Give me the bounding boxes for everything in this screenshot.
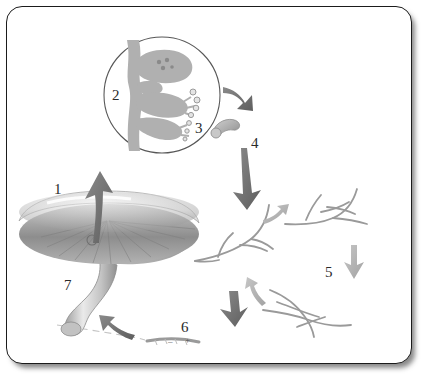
stalk-base <box>61 322 81 336</box>
mating-hypha-fusion <box>147 339 199 345</box>
label-7: 7 <box>64 278 72 293</box>
arrow-inset-to-spore <box>223 87 253 111</box>
hypha-cluster-lower-left <box>195 205 273 262</box>
nucleus <box>161 66 165 70</box>
nucleus <box>165 58 169 62</box>
basidium-upper <box>138 50 192 83</box>
arrow-hyphae-down-right <box>344 245 364 279</box>
arrow-fusion-to-mushroom <box>99 315 135 340</box>
hypha-cluster-bottom-right-fusing <box>263 290 351 337</box>
magnified-gill-inset <box>104 37 220 153</box>
label-6: 6 <box>181 320 189 335</box>
label-4: 4 <box>251 136 259 151</box>
plus-mating-type-sign: + <box>185 336 190 345</box>
label-1: 1 <box>54 182 62 197</box>
label-5: 5 <box>325 265 333 280</box>
arrow-fusion-left <box>220 291 248 327</box>
label-3: 3 <box>195 121 203 136</box>
mushroom-fruiting-body <box>19 191 199 336</box>
diagram-frame: 1 2 3 4 5 6 7 – + <box>6 6 412 364</box>
arrow-spore-to-hyphae <box>233 148 261 210</box>
hypha-cluster-upper-right <box>285 189 367 224</box>
germinating-spore <box>211 119 240 138</box>
minus-mating-type-sign: – <box>168 337 173 346</box>
arrow-hyphae-to-fusion <box>245 277 266 306</box>
life-cycle-illustration <box>7 7 411 363</box>
nucleus <box>157 60 161 64</box>
nucleus <box>170 65 174 69</box>
label-2: 2 <box>112 88 120 103</box>
